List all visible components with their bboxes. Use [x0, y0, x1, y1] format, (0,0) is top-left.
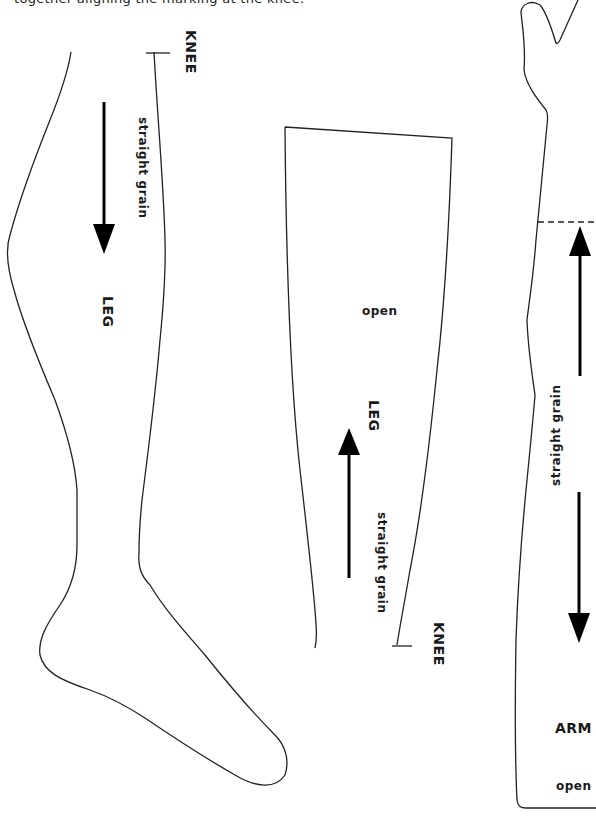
grain-arrow-up-icon	[338, 428, 360, 578]
knee-label-middle: KNEE	[431, 622, 447, 666]
open-label-arm: open	[556, 779, 592, 793]
piece-name-arm: ARM	[555, 720, 592, 736]
piece-name-leg-middle: LEG	[366, 400, 382, 431]
leg-middle-piece	[285, 127, 452, 648]
grain-label-middle: straight grain	[375, 512, 389, 614]
grain-arrow-down-icon	[93, 102, 115, 254]
grain-label-arm: straight grain	[549, 384, 563, 486]
grain-arrow-up-arm-icon	[569, 226, 591, 376]
grain-label-left: straight grain	[136, 117, 150, 219]
grain-arrow-down-arm-icon	[568, 492, 590, 643]
pattern-sheet	[0, 0, 596, 816]
leg-middle-outline	[285, 127, 452, 648]
open-label-middle: open	[362, 304, 398, 318]
piece-name-leg-left: LEG	[100, 296, 116, 327]
knee-label-left: KNEE	[183, 30, 199, 74]
